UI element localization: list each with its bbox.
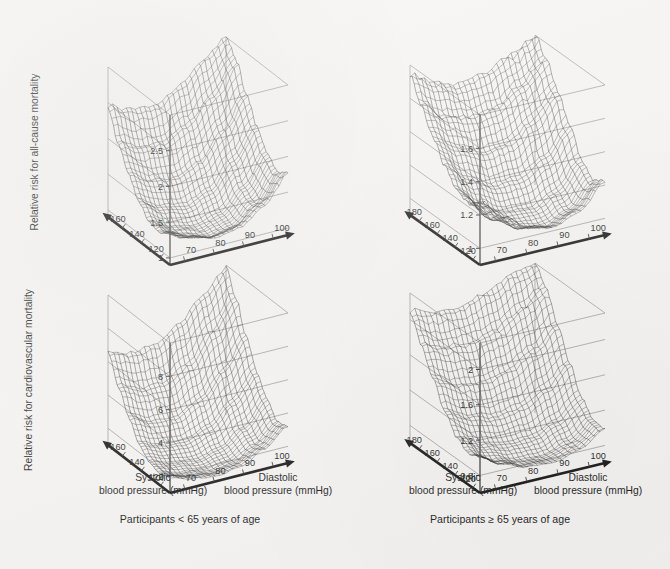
surface-plot-panel-bottom-right: 0.81.21.62180160140120708090100	[330, 250, 660, 500]
systolic-tick-label: 160	[110, 214, 125, 224]
z-tick-label: 1.2	[460, 436, 473, 446]
z-tick-label: 2.5	[150, 146, 163, 156]
systolic-tick-label: 160	[425, 220, 440, 230]
z-tick-label: 1.6	[460, 144, 473, 154]
diastolic-tick-label: 100	[591, 223, 606, 233]
diastolic-tick-label: 90	[559, 458, 569, 468]
caption-older-participants: Participants ≥ 65 years of age	[340, 513, 660, 525]
systolic-tick-label: 140	[442, 233, 457, 243]
risk-surface-mesh-bottom-right	[410, 264, 605, 468]
diastolic-tick-label: 90	[245, 458, 255, 468]
z-axis-title: Relative risk for all-cause mortality	[29, 73, 40, 231]
diastolic-tick-label: 100	[274, 223, 289, 233]
risk-surface-mesh-bottom-left	[108, 266, 288, 479]
systolic-tick-label: 160	[425, 448, 440, 458]
z-tick-label: 4	[158, 438, 163, 448]
systolic-tick-label: 140	[129, 229, 144, 239]
diastolic-axis-title-right-line2: blood pressure (mmHg)	[513, 484, 663, 497]
z-tick-label: 2	[158, 182, 163, 192]
systolic-tick-label: 160	[110, 442, 125, 452]
z-tick-label: 1.6	[460, 400, 473, 410]
diastolic-axis-title-right-line1: Diastolic	[513, 471, 663, 484]
diastolic-axis-title-left: Diastolicblood pressure (mmHg)	[203, 471, 353, 497]
surface-plot-svg-bottom-right: 0.81.21.62180160140120708090100	[330, 250, 660, 500]
risk-surface-mesh-top-right	[410, 37, 605, 230]
diastolic-axis-title-right: Diastolicblood pressure (mmHg)	[513, 471, 663, 497]
surface-plot-svg-top-left: 11.522.5160140120708090100Relative risk …	[20, 22, 340, 272]
z-tick-label: 8	[158, 372, 163, 382]
surface-plot-panel-bottom-left: 2468160140120708090100Relative risk for …	[20, 250, 340, 500]
surface-plot-svg-top-right: 11.21.41.6180160140120708090100	[330, 22, 660, 272]
surface-plot-panel-top-left: 11.522.5160140120708090100Relative risk …	[20, 22, 340, 272]
diastolic-tick-label: 90	[245, 230, 255, 240]
diastolic-tick-label: 80	[528, 238, 538, 248]
z-tick-label: 1.2	[460, 210, 473, 220]
systolic-tick-label: 140	[129, 457, 144, 467]
diastolic-tick-label: 80	[215, 238, 225, 248]
surface-plot-panel-top-right: 11.21.41.6180160140120708090100	[330, 22, 660, 272]
systolic-tick-label: 180	[407, 207, 422, 217]
diastolic-tick-label: 90	[559, 230, 569, 240]
diastolic-tick-label: 100	[591, 451, 606, 461]
risk-surface-mesh-top-left	[108, 37, 288, 239]
z-tick-label: 1.5	[150, 218, 163, 228]
figure-root: 11.522.5160140120708090100Relative risk …	[0, 0, 670, 569]
z-axis-title: Relative risk for cardiovascular mortali…	[23, 288, 34, 471]
systolic-tick-label: 140	[442, 461, 457, 471]
caption-younger-participants: Participants < 65 years of age	[30, 513, 350, 525]
z-tick-label: 6	[158, 405, 163, 415]
diastolic-axis-title-left-line2: blood pressure (mmHg)	[203, 484, 353, 497]
diastolic-tick-label: 100	[274, 451, 289, 461]
surface-plot-svg-bottom-left: 2468160140120708090100Relative risk for …	[20, 250, 340, 500]
z-tick-label: 1.4	[460, 177, 473, 187]
systolic-tick-label: 180	[407, 435, 422, 445]
z-tick-label: 2	[468, 365, 473, 375]
diastolic-axis-title-left-line1: Diastolic	[203, 471, 353, 484]
